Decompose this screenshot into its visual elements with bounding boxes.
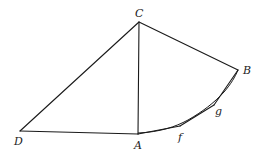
segment-cb [139,22,238,70]
chord-fg [180,105,214,126]
label-a: A [133,139,142,152]
label-c: C [135,7,144,20]
arc-ab [138,70,238,133]
chord-gb [214,70,238,105]
label-d: D [13,135,23,148]
label-g: g [215,105,222,118]
segment-ca [138,22,139,134]
geometry-diagram: C B g f A D [0,0,264,156]
segment-da [20,131,138,134]
label-b: B [242,64,251,77]
label-f: f [177,131,184,144]
segment-cd [20,22,139,131]
